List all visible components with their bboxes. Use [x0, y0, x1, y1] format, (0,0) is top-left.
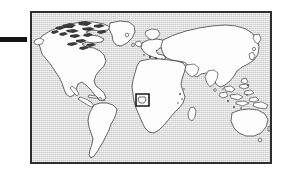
world-map-frame[interactable]	[30, 11, 272, 164]
highlight-inner-shape	[138, 97, 146, 103]
island-great-britain	[135, 41, 142, 47]
island-iceland	[125, 33, 129, 37]
landmass-africa	[132, 59, 186, 133]
landmass-scandinavia	[145, 29, 160, 40]
leader-bar	[0, 37, 27, 42]
island-hispaniola	[99, 98, 102, 101]
island-puerto-rico	[103, 99, 105, 101]
island-sri-lanka	[214, 89, 217, 92]
island-ireland	[132, 44, 135, 47]
island-new-zealand	[268, 126, 270, 131]
landmass-central-america	[78, 97, 94, 107]
island-new-guinea	[253, 102, 268, 109]
world-map-svg	[32, 13, 270, 162]
island-madagascar	[188, 107, 196, 121]
landmass-greenland	[109, 21, 135, 46]
island-hokkaido	[252, 47, 255, 50]
island-tasmania	[258, 138, 262, 142]
figure-root	[0, 0, 294, 177]
landmass-south-america	[88, 103, 117, 158]
landmass-australia	[231, 109, 268, 136]
